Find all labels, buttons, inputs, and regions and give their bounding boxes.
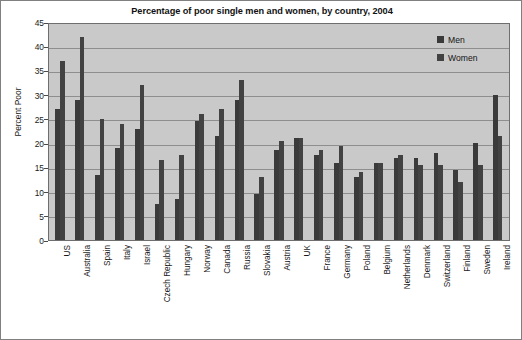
- bar-women: [279, 141, 284, 240]
- bar-women: [120, 124, 125, 240]
- x-label-cell: Slovakia: [249, 242, 269, 338]
- bar-group: [110, 24, 130, 240]
- bar-group: [349, 24, 369, 240]
- x-axis-labels: USAustraliaSpainItalyIsraelCzech Republi…: [48, 242, 510, 338]
- legend-label-women: Women: [448, 53, 477, 63]
- chart-title: Percentage of poor single men and women,…: [1, 6, 522, 16]
- x-label-cell: Norway: [189, 242, 209, 338]
- x-label-cell: Finland: [449, 242, 469, 338]
- bar-women: [140, 85, 145, 240]
- bar-group: [169, 24, 189, 240]
- x-label-cell: Czech Republic: [149, 242, 169, 338]
- bar-group: [50, 24, 70, 240]
- legend-label-men: Men: [448, 35, 465, 45]
- y-tick-label: 45: [4, 19, 44, 27]
- bar-group: [289, 24, 309, 240]
- bar-women: [378, 163, 383, 241]
- chart-legend: Men Women: [393, 32, 485, 68]
- x-label-cell: Poland: [349, 242, 369, 338]
- x-label-cell: France: [309, 242, 329, 338]
- x-label-cell: US: [49, 242, 69, 338]
- x-tick-label: Ireland: [503, 245, 512, 270]
- x-label-cell: Israel: [129, 242, 149, 338]
- x-label-cell: Netherlands: [389, 242, 409, 338]
- y-axis-ticks: 051015202530354045: [1, 23, 44, 241]
- bar-group: [209, 24, 229, 240]
- bar-women: [159, 160, 164, 240]
- bar-women: [259, 177, 264, 240]
- bar-women: [478, 165, 483, 240]
- bar-women: [498, 136, 503, 240]
- chart-figure: Percentage of poor single men and women,…: [0, 0, 522, 340]
- bar-group: [70, 24, 90, 240]
- bar-women: [179, 155, 184, 240]
- x-label-cell: Hungary: [169, 242, 189, 338]
- y-tick-label: 10: [4, 189, 44, 197]
- bar-group: [229, 24, 249, 240]
- x-label-cell: Austria: [269, 242, 289, 338]
- bar-group: [329, 24, 349, 240]
- bar-group: [189, 24, 209, 240]
- y-tick-label: 20: [4, 140, 44, 148]
- y-tick-label: 25: [4, 116, 44, 124]
- y-tick-label: 0: [4, 237, 44, 245]
- x-label-cell: Italy: [109, 242, 129, 338]
- bar-women: [80, 37, 85, 240]
- legend-swatch-men-icon: [437, 36, 444, 43]
- bar-group: [488, 24, 508, 240]
- bar-women: [239, 80, 244, 240]
- y-tick-label: 40: [4, 43, 44, 51]
- bar-women: [199, 114, 204, 240]
- x-label-cell: Germany: [329, 242, 349, 338]
- bar-group: [249, 24, 269, 240]
- bar-group: [309, 24, 329, 240]
- legend-swatch-women-icon: [437, 54, 444, 61]
- x-label-cell: Denmark: [409, 242, 429, 338]
- bar-women: [438, 165, 443, 240]
- bar-women: [339, 146, 344, 240]
- bar-women: [418, 165, 423, 240]
- x-label-cell: Switzerland: [429, 242, 449, 338]
- bar-group: [130, 24, 150, 240]
- x-label-cell: Spain: [89, 242, 109, 338]
- bar-women: [398, 155, 403, 240]
- y-tick-label: 35: [4, 67, 44, 75]
- bar-women: [359, 172, 364, 240]
- bar-group: [269, 24, 289, 240]
- bar-women: [100, 119, 105, 240]
- bar-women: [299, 138, 304, 240]
- x-label-cell: Australia: [69, 242, 89, 338]
- x-label-cell: UK: [289, 242, 309, 338]
- y-tick-label: 5: [4, 213, 44, 221]
- bar-group: [150, 24, 170, 240]
- y-tick-label: 15: [4, 164, 44, 172]
- legend-item-men: Men: [393, 32, 485, 47]
- x-label-cell: Russia: [229, 242, 249, 338]
- y-tick-label: 30: [4, 92, 44, 100]
- x-label-cell: Belgium: [369, 242, 389, 338]
- bar-group: [90, 24, 110, 240]
- bar-women: [458, 182, 463, 240]
- bar-women: [219, 109, 224, 240]
- bar-women: [319, 150, 324, 240]
- legend-item-women: Women: [393, 50, 485, 65]
- bar-women: [60, 61, 65, 240]
- x-label-cell: Ireland: [489, 242, 509, 338]
- x-label-cell: Canada: [209, 242, 229, 338]
- x-label-cell: Sweden: [469, 242, 489, 338]
- bar-group: [369, 24, 389, 240]
